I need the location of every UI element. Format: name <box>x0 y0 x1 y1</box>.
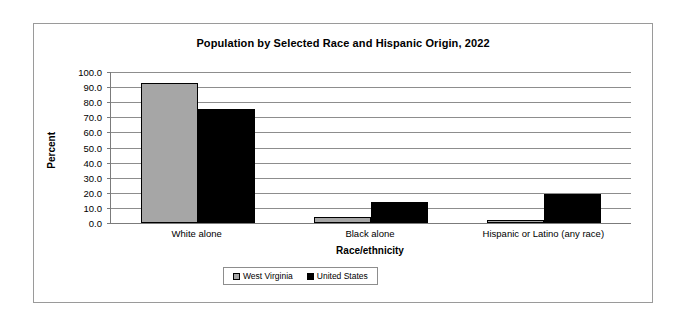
bar-group <box>284 72 457 223</box>
y-axis-tick-label: 90.0 <box>60 82 102 93</box>
legend-swatch-icon <box>233 273 240 280</box>
bar[interactable] <box>314 217 371 223</box>
chart-title: Population by Selected Race and Hispanic… <box>34 37 652 49</box>
bar[interactable] <box>198 109 255 223</box>
x-axis-tick-label: White alone <box>110 228 283 239</box>
legend-label: United States <box>317 271 368 281</box>
bar-group <box>111 72 284 223</box>
y-axis-tick-label: 100.0 <box>60 67 102 78</box>
y-axis-tick-label: 20.0 <box>60 187 102 198</box>
y-axis-tick-label: 10.0 <box>60 202 102 213</box>
x-axis-tick-labels: White aloneBlack aloneHispanic or Latino… <box>110 228 630 239</box>
x-axis-title: Race/ethnicity <box>110 245 630 256</box>
y-axis-tick-label: 50.0 <box>60 142 102 153</box>
bar[interactable] <box>487 220 544 223</box>
y-axis-tick-label: 0.0 <box>60 218 102 229</box>
plot-area <box>110 72 631 224</box>
y-axis-tick-label: 70.0 <box>60 112 102 123</box>
bar-group <box>458 72 631 223</box>
legend-entry[interactable]: West Virginia <box>233 271 293 281</box>
x-axis-tick-label: Hispanic or Latino (any race) <box>457 228 630 239</box>
legend-label: West Virginia <box>243 271 293 281</box>
bar[interactable] <box>141 83 198 223</box>
chart-legend: West VirginiaUnited States <box>223 267 378 285</box>
chart-frame: Population by Selected Race and Hispanic… <box>33 23 653 303</box>
y-axis-tickmark <box>107 223 111 224</box>
x-axis-tick-label: Black alone <box>283 228 456 239</box>
bar[interactable] <box>371 202 428 223</box>
y-axis-tick-label: 30.0 <box>60 172 102 183</box>
y-axis-tick-label: 60.0 <box>60 127 102 138</box>
y-axis-tick-labels: 100.090.080.070.060.050.040.030.020.010.… <box>60 66 102 218</box>
y-axis-tick-label: 40.0 <box>60 157 102 168</box>
bar[interactable] <box>544 194 601 223</box>
y-axis-tick-label: 80.0 <box>60 97 102 108</box>
legend-entry[interactable]: United States <box>307 271 368 281</box>
y-axis-title: Percent <box>46 132 60 169</box>
bar-groups <box>111 72 631 223</box>
legend-swatch-icon <box>307 273 314 280</box>
